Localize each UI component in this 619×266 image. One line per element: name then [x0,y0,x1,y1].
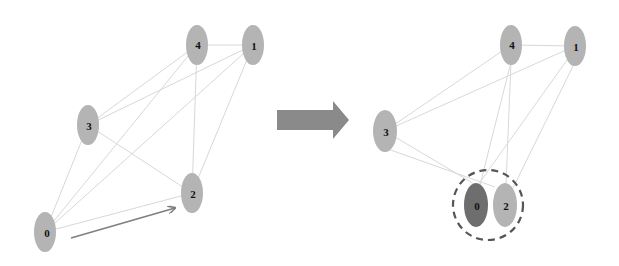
move-arrow [71,208,175,238]
node-4: 4 [186,25,208,65]
svg-text:3: 3 [383,126,389,138]
svg-text:4: 4 [195,39,201,51]
edge-4-2 [192,45,197,193]
before-edges [45,45,253,232]
after-edges [385,45,575,188]
edge-3-2 [88,125,192,193]
svg-text:0: 0 [474,200,480,212]
node-1: 1 [564,26,586,66]
node-0: 0 [34,212,56,252]
after-graph: 4 1 3 0 2 [373,25,586,240]
edge-1-0 [478,60,567,185]
edge-3-4 [88,45,197,125]
svg-text:2: 2 [190,188,196,200]
before-graph: 4 1 3 2 0 [34,25,264,252]
graph-merge-diagram: 4 1 3 2 0 [0,0,619,266]
edge-3-1 [88,45,253,125]
edge-3-0 [385,131,476,185]
svg-text:1: 1 [573,41,579,53]
edge-0-4 [45,45,197,232]
edge-1-2 [192,45,253,193]
node-0-merged: 0 [464,183,488,227]
edge-3-2 [385,148,495,187]
svg-text:2: 2 [503,200,509,212]
edge-1-2 [513,62,575,188]
node-1: 1 [242,25,264,65]
node-3: 3 [373,110,397,152]
edge-3-4 [385,45,511,131]
svg-text:0: 0 [44,227,50,239]
right-arrow-icon [277,101,349,139]
node-2: 2 [181,173,203,213]
node-2: 2 [493,183,517,227]
node-4: 4 [500,25,522,65]
svg-text:4: 4 [509,39,515,51]
node-3: 3 [77,105,99,145]
svg-text:3: 3 [86,120,92,132]
svg-text:1: 1 [251,40,257,52]
